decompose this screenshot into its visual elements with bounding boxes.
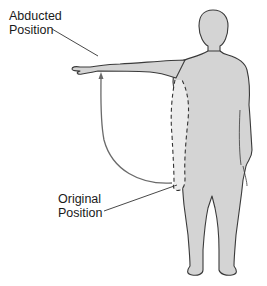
abduction-diagram (0, 0, 267, 286)
torso-and-legs (173, 51, 252, 275)
arrowhead-icon (99, 72, 104, 79)
original-label-line2: Position (58, 206, 102, 220)
original-leader-line (104, 185, 177, 211)
original-label-line1: Original (58, 192, 102, 206)
abducted-position-label: Abducted Position (9, 9, 62, 37)
arrow-arc (101, 77, 172, 183)
abducted-arm (72, 60, 185, 78)
human-figure (72, 10, 252, 275)
original-position-label: Original Position (58, 192, 102, 220)
abducted-label-line1: Abducted (9, 9, 62, 23)
abducted-label-line2: Position (9, 23, 62, 37)
head (199, 10, 228, 52)
abduction-arrow (99, 72, 173, 183)
